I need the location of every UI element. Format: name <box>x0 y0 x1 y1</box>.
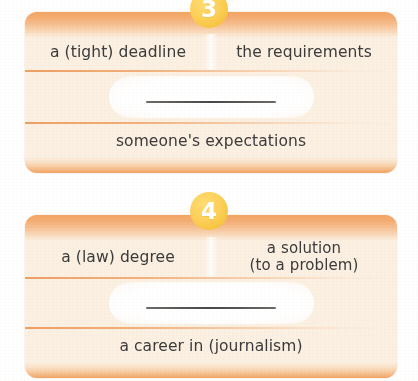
options-row: a (law) degree a solution (to a problem) <box>25 237 397 277</box>
answer-pill[interactable] <box>109 282 314 324</box>
answer-blank-line[interactable] <box>146 307 276 309</box>
answer-blank-line[interactable] <box>146 101 276 103</box>
option-label: a (law) degree <box>61 248 175 266</box>
answer-pill[interactable] <box>109 76 314 118</box>
exercise-number-badge-4: 4 <box>190 192 228 230</box>
footer-row: a career in (journalism) <box>25 329 397 363</box>
footer-label: a career in (journalism) <box>119 337 302 355</box>
option-label: the requirements <box>236 43 372 61</box>
option-cell-right[interactable]: the requirements <box>211 43 397 61</box>
answer-zone <box>25 279 397 327</box>
option-label-line-1: a solution <box>215 240 393 257</box>
exercise-card-3: a (tight) deadline the requirements some… <box>25 12 397 173</box>
footer-row: someone's expectations <box>25 124 397 158</box>
badge-number: 3 <box>201 0 217 21</box>
badge-number: 4 <box>201 200 217 223</box>
exercise-card-4: a (law) degree a solution (to a problem)… <box>25 215 397 378</box>
options-row: a (tight) deadline the requirements <box>25 34 397 70</box>
card-bottom-band <box>25 362 397 378</box>
answer-zone <box>25 72 397 122</box>
option-label-line-2: (to a problem) <box>215 257 393 274</box>
footer-label: someone's expectations <box>116 132 306 150</box>
card-bottom-band <box>25 157 397 173</box>
option-cell-right[interactable]: a solution (to a problem) <box>211 240 397 275</box>
option-cell-left[interactable]: a (law) degree <box>25 248 211 266</box>
worksheet-page: a (tight) deadline the requirements some… <box>0 0 418 381</box>
option-cell-left[interactable]: a (tight) deadline <box>25 43 211 61</box>
option-label: a (tight) deadline <box>50 43 186 61</box>
